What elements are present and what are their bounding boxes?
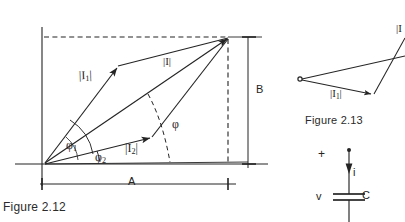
vector-i2-to-apex xyxy=(152,39,228,137)
label-current: i xyxy=(353,167,355,178)
label-dimension-a: A xyxy=(128,176,135,187)
label-phi2: φ2 xyxy=(95,151,106,165)
dimension-b xyxy=(228,37,262,168)
label-phi1: φ1 xyxy=(66,139,77,153)
origin-dot-213 xyxy=(298,77,302,81)
label-voltage: v xyxy=(316,191,322,202)
label-polarity-plus: + xyxy=(318,148,325,160)
caption-figure-212: Figure 2.12 xyxy=(3,200,66,214)
label-i-figure-213: |I xyxy=(396,23,402,34)
label-i-resultant: |I| xyxy=(163,56,171,67)
dimension-a xyxy=(40,178,236,190)
capacitor-circuit xyxy=(333,148,365,222)
vector-i1-to-apex xyxy=(118,38,228,66)
label-i2: |I2| xyxy=(125,142,138,156)
current-arrow xyxy=(346,164,353,175)
diagram-canvas xyxy=(0,0,405,222)
caption-figure-213: Figure 2.13 xyxy=(305,114,363,126)
label-i1: |I1| xyxy=(79,69,92,84)
figure-page: |I1| |I| |I2| φ1 φ2 φ A B Figure 2.12 |I… xyxy=(0,0,405,222)
label-capacitor: C xyxy=(362,190,370,201)
label-phi: φ xyxy=(172,118,179,130)
label-dimension-b: B xyxy=(256,84,263,95)
figure-213-vectors xyxy=(298,38,405,94)
label-i1-figure-213: |I1| xyxy=(330,88,342,100)
